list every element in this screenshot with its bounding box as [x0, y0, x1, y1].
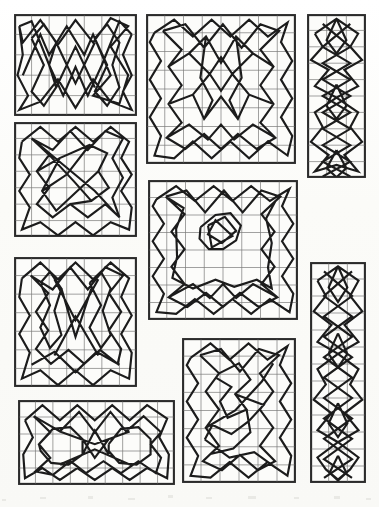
pattern-panel-center-middle-large — [148, 180, 298, 320]
pattern-panel-bottom-left-wide — [18, 400, 175, 485]
scan-smudge — [168, 495, 173, 498]
pattern-panel-left-lower-square — [14, 257, 137, 387]
scan-smudge — [294, 497, 299, 499]
pattern-panel-top-right-tall-narrow — [307, 14, 366, 178]
scan-smudge — [334, 496, 340, 499]
scan-smudge — [40, 497, 46, 499]
scan-smudge — [206, 497, 212, 499]
pattern-panel-left-middle-square — [14, 122, 137, 237]
pattern-panel-bottom-center-upright — [182, 338, 296, 483]
pattern-panel-right-tall-narrow — [310, 262, 366, 483]
pattern-panel-top-left-wide — [14, 14, 137, 116]
scan-smudge — [248, 496, 256, 499]
scan-smudge — [88, 496, 93, 499]
pattern-plate-page — [0, 0, 379, 507]
scan-smudge — [2, 499, 6, 501]
scan-smudge — [366, 498, 371, 500]
scan-smudge — [128, 498, 135, 500]
pattern-panel-top-center-large — [146, 14, 296, 164]
